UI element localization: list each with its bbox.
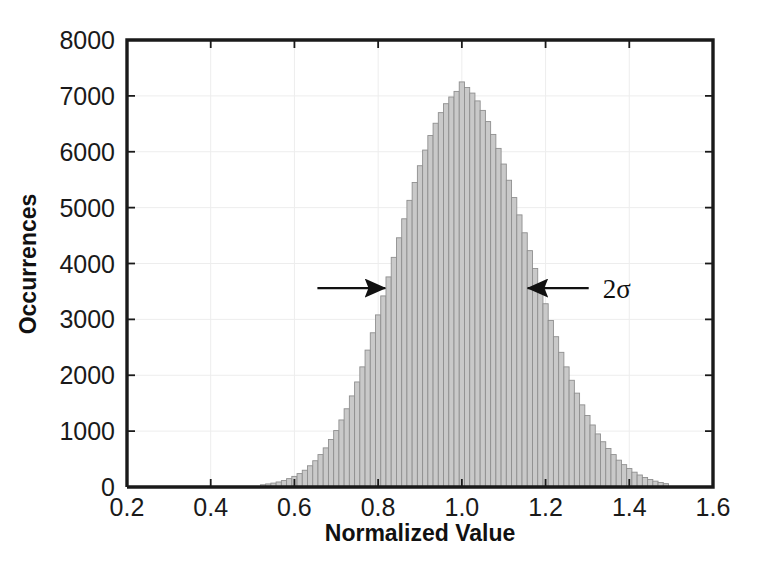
x-tick-label: 0.8: [361, 493, 396, 521]
histogram-bar: [496, 148, 501, 487]
y-tick-label: 1000: [59, 417, 115, 445]
x-axis-title: Normalized Value: [325, 520, 515, 546]
histogram-bar: [438, 113, 443, 487]
y-tick-label: 8000: [59, 26, 115, 54]
histogram-bar: [480, 110, 485, 487]
histogram-bar: [580, 405, 585, 487]
figure-canvas: 0.20.40.60.81.01.21.41.6 010002000300040…: [0, 0, 758, 577]
histogram-bar: [323, 448, 328, 487]
histogram-bar: [302, 470, 307, 487]
x-tick-label: 1.2: [528, 493, 563, 521]
histogram-bar: [459, 82, 464, 487]
histogram-bar: [491, 134, 496, 487]
histogram-chart: 0.20.40.60.81.01.21.41.6 010002000300040…: [0, 0, 758, 577]
histogram-bar: [637, 475, 642, 487]
histogram-bar: [543, 304, 548, 487]
histogram-bar: [532, 269, 537, 487]
histogram-bar: [601, 442, 606, 487]
histogram-bar: [370, 333, 375, 487]
histogram-bar: [464, 87, 469, 487]
histogram-bar: [548, 320, 553, 487]
x-axis-tick-labels: 0.20.40.60.81.01.21.41.6: [110, 493, 731, 521]
histogram-bar: [328, 440, 333, 487]
histogram-bar: [360, 367, 365, 487]
y-tick-label: 4000: [59, 250, 115, 278]
histogram-bar: [449, 97, 454, 487]
histogram-bar: [444, 104, 449, 487]
histogram-bar: [334, 431, 339, 487]
x-tick-label: 1.0: [445, 493, 480, 521]
x-tick-label: 0.4: [193, 493, 228, 521]
histogram-bar: [349, 396, 354, 487]
histogram-bar: [365, 350, 370, 487]
histogram-bar: [606, 448, 611, 487]
histogram-bar: [632, 472, 637, 487]
y-tick-label: 5000: [59, 194, 115, 222]
histogram-bar: [621, 465, 626, 487]
histogram-bar: [391, 257, 396, 487]
histogram-bar: [407, 200, 412, 487]
y-axis-tick-labels: 010002000300040005000600070008000: [59, 26, 115, 501]
histogram-bar: [569, 380, 574, 487]
histogram-bar: [308, 466, 313, 487]
histogram-bar: [297, 474, 302, 487]
histogram-bar: [527, 251, 532, 487]
y-tick-label: 3000: [59, 305, 115, 333]
histogram-bar: [355, 382, 360, 487]
histogram-bar: [564, 367, 569, 487]
histogram-bar: [470, 93, 475, 487]
histogram-bar: [512, 198, 517, 487]
histogram-bar: [402, 219, 407, 487]
y-axis-title: Occurrences: [15, 194, 41, 335]
histogram-bar: [428, 136, 433, 487]
histogram-bar: [585, 415, 590, 487]
histogram-bar: [381, 296, 386, 487]
histogram-bar: [616, 460, 621, 487]
histogram-bar: [313, 461, 318, 487]
histogram-bar: [339, 420, 344, 487]
histogram-bar: [433, 123, 438, 487]
histogram-bar: [538, 286, 543, 487]
y-tick-label: 2000: [59, 361, 115, 389]
histogram-bar: [506, 180, 511, 487]
y-tick-label: 6000: [59, 138, 115, 166]
histogram-bar: [553, 337, 558, 487]
two-sigma-label: 2σ: [603, 274, 632, 304]
x-tick-label: 1.6: [696, 493, 731, 521]
histogram-bar: [574, 393, 579, 487]
histogram-bar: [318, 455, 323, 487]
histogram-bar: [522, 233, 527, 487]
histogram-bar: [475, 101, 480, 487]
histogram-bar: [559, 352, 564, 487]
x-tick-label: 1.4: [612, 493, 647, 521]
histogram-bar: [412, 182, 417, 487]
y-tick-label: 0: [101, 473, 115, 501]
y-tick-label: 7000: [59, 82, 115, 110]
histogram-bar: [423, 150, 428, 487]
histogram-bar: [386, 277, 391, 487]
histogram-bar: [417, 166, 422, 487]
histogram-bar: [454, 91, 459, 487]
histogram-bar: [611, 455, 616, 487]
histogram-bar: [501, 164, 506, 487]
histogram-bar: [396, 238, 401, 487]
histogram-bar: [376, 315, 381, 487]
histogram-bar: [590, 425, 595, 487]
histogram-bar: [344, 409, 349, 487]
histogram-bar: [517, 215, 522, 487]
x-tick-label: 0.6: [277, 493, 312, 521]
histogram-bar: [595, 434, 600, 487]
histogram-bar: [485, 122, 490, 487]
